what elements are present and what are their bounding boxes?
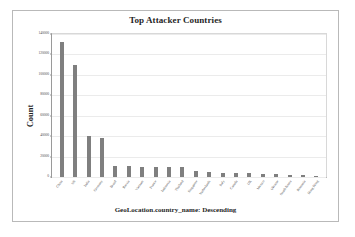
x-tick-label: US [72, 180, 77, 186]
bar[interactable] [234, 173, 238, 177]
x-tick-label: Canada [230, 180, 239, 191]
bar[interactable] [247, 173, 251, 177]
bar-slot [229, 34, 242, 177]
bar-slot [135, 34, 148, 177]
bar-slot [149, 34, 162, 177]
x-tick-label: Romania [296, 180, 306, 192]
plot-area: 020000400006000080000100000120000140000 [51, 33, 327, 178]
bar[interactable] [100, 138, 104, 177]
bar-slot [122, 34, 135, 177]
bar[interactable] [261, 174, 265, 177]
bar[interactable] [140, 167, 144, 177]
x-tick-label: UK [247, 180, 253, 186]
bar-slot [109, 34, 122, 177]
bar[interactable] [73, 65, 77, 177]
y-tick-label: 20000 [40, 155, 49, 159]
y-tick-label: 0 [47, 175, 49, 179]
bar-slot [283, 34, 296, 177]
y-tick-label: 120000 [39, 53, 49, 57]
bar[interactable] [314, 176, 318, 177]
x-tick-label: Russia [123, 180, 131, 190]
bar[interactable] [221, 173, 225, 177]
bar[interactable] [274, 174, 278, 177]
bar[interactable] [60, 42, 64, 177]
x-tick-label: India [84, 180, 91, 188]
x-tick-label: Singapore [188, 180, 199, 194]
bar-slot [95, 34, 108, 177]
y-axis-title: Count [25, 105, 35, 128]
bar[interactable] [207, 172, 211, 177]
x-tick-label: Mexico [257, 180, 266, 191]
bar-series [52, 34, 326, 177]
x-tick-label: Ukraine [270, 180, 279, 191]
x-tick-label: Indonesia [161, 180, 172, 193]
y-tick-label: 80000 [40, 93, 49, 97]
bar-slot [176, 34, 189, 177]
chart-title: Top Attacker Countries [13, 15, 338, 25]
bar-slot [162, 34, 175, 177]
x-tick-label: Vietnam [135, 180, 145, 192]
bar[interactable] [180, 167, 184, 177]
bar-slot [82, 34, 95, 177]
bar[interactable] [87, 136, 91, 177]
bar-slot [216, 34, 229, 177]
x-tick-label: China [56, 180, 64, 189]
bar-slot [55, 34, 68, 177]
bar-slot [256, 34, 269, 177]
bar[interactable] [288, 175, 292, 177]
bar-slot [243, 34, 256, 177]
bar-slot [296, 34, 309, 177]
bar-slot [270, 34, 283, 177]
bar-slot [310, 34, 323, 177]
bar[interactable] [113, 166, 117, 177]
chart-card: Top Attacker Countries Count 02000040000… [12, 10, 339, 222]
y-tick-label: 100000 [39, 73, 49, 77]
x-tick-label: France [150, 180, 158, 190]
x-tick-label: Italy [219, 180, 226, 187]
bar[interactable] [167, 167, 171, 177]
x-tick-label: Thailand [175, 180, 185, 192]
bar[interactable] [154, 167, 158, 177]
bar-slot [68, 34, 81, 177]
bar[interactable] [301, 175, 305, 177]
x-axis-title: GeoLocation.country_name: Descending [13, 206, 338, 214]
y-tick-label: 40000 [40, 134, 49, 138]
y-tick-label: 60000 [40, 114, 49, 118]
y-tick-label: 140000 [39, 32, 49, 36]
bar[interactable] [194, 171, 198, 177]
x-tick-label: Brazil [110, 180, 118, 189]
gridline [52, 177, 326, 178]
x-tick-label: Hong Kong [308, 180, 320, 195]
bar-slot [189, 34, 202, 177]
bar[interactable] [127, 166, 131, 177]
bar-slot [202, 34, 215, 177]
x-tick-label: Germany [94, 180, 104, 193]
